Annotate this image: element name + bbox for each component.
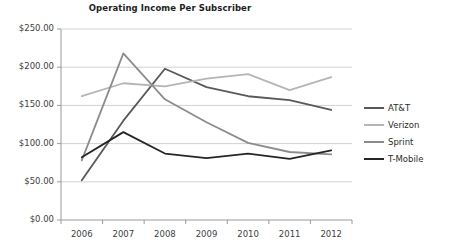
x-axis-label: 2006 — [62, 229, 102, 239]
x-axis-label: 2007 — [103, 229, 143, 239]
y-axis-label: $0.00 — [2, 214, 54, 224]
y-axis-label: $200.00 — [2, 61, 54, 71]
x-axis-label: 2012 — [311, 229, 351, 239]
chart-legend: AT&TVerizonSprintT-Mobile — [364, 99, 456, 167]
legend-item-sprint[interactable]: Sprint — [364, 133, 456, 150]
series-line-sprint — [82, 53, 331, 160]
series-line-verizon — [82, 74, 331, 96]
legend-item-t-mobile[interactable]: T-Mobile — [364, 150, 456, 167]
legend-swatch-icon — [364, 124, 384, 126]
y-axis-label: $150.00 — [2, 99, 54, 109]
x-axis-label: 2010 — [228, 229, 268, 239]
legend-item-verizon[interactable]: Verizon — [364, 116, 456, 133]
legend-label: T-Mobile — [388, 154, 423, 164]
legend-swatch-icon — [364, 158, 384, 160]
legend-swatch-icon — [364, 141, 384, 143]
x-axis-label: 2008 — [145, 229, 185, 239]
x-axis-label: 2011 — [270, 229, 310, 239]
legend-item-at-t[interactable]: AT&T — [364, 99, 456, 116]
series-line-t-mobile — [82, 132, 331, 159]
legend-label: Verizon — [388, 120, 419, 130]
y-axis-label: $250.00 — [2, 23, 54, 33]
x-axis-label: 2009 — [187, 229, 227, 239]
legend-label: AT&T — [388, 103, 410, 113]
legend-swatch-icon — [364, 107, 384, 109]
y-axis-label: $100.00 — [2, 138, 54, 148]
legend-label: Sprint — [388, 137, 413, 147]
chart-container: Operating Income Per Subscriber $250.00$… — [0, 0, 457, 252]
y-axis-label: $50.00 — [2, 176, 54, 186]
